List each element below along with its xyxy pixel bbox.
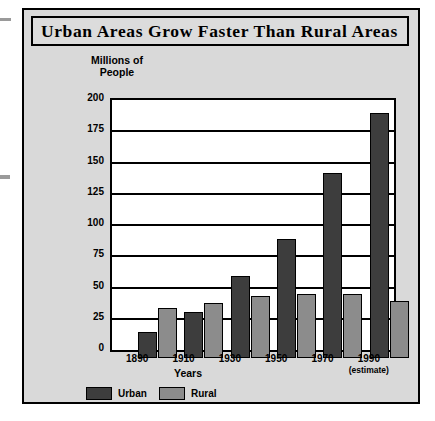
bar-group-1930 [231, 110, 277, 358]
x-axis-ticks: 189019101930195019701990(estimate) [112, 353, 390, 383]
y-tick-label-175: 175 [64, 123, 104, 134]
y-tick-label-200: 200 [64, 92, 104, 103]
x-tick-year: 1990 [358, 353, 380, 364]
x-tick-label-1990: 1990(estimate) [338, 353, 400, 375]
legend-label-rural: Rural [191, 388, 217, 399]
bar-rural-1950 [297, 294, 316, 358]
x-tick-note: (estimate) [338, 365, 400, 375]
legend-item-urban: Urban [86, 387, 147, 400]
chart-legend: UrbanRural [86, 387, 216, 400]
x-tick-year: 1970 [311, 353, 333, 364]
y-tick-label-75: 75 [64, 248, 104, 259]
bar-urban-1930 [231, 276, 250, 359]
bar-group-1990 [370, 110, 416, 358]
legend-swatch-urban [86, 387, 112, 400]
chart-title-bar: Urban Areas Grow Faster Than Rural Areas [31, 16, 409, 46]
y-axis-title-line1: Millions of [62, 54, 172, 66]
y-tick-label-150: 150 [64, 155, 104, 166]
x-tick-year: 1890 [126, 353, 148, 364]
bar-group-1890 [138, 110, 184, 358]
y-axis-title: Millions of People [62, 54, 172, 78]
y-tick-label-125: 125 [64, 186, 104, 197]
x-tick-year: 1910 [172, 353, 194, 364]
bar-rural-1930 [251, 296, 270, 359]
x-axis-label: Years [174, 367, 202, 379]
y-tick-label-0: 0 [64, 342, 104, 353]
plot-frame [110, 98, 396, 352]
y-axis-title-line2: People [62, 66, 172, 78]
legend-label-urban: Urban [118, 388, 147, 399]
plot-area: 2001751501251007550250 [88, 90, 394, 356]
bar-rural-1970 [343, 294, 362, 358]
bar-rural-1910 [204, 303, 223, 358]
bar-group-1950 [277, 110, 323, 358]
legend-swatch-rural [159, 387, 185, 400]
bar-group-1970 [323, 110, 369, 358]
bar-urban-1910 [184, 312, 203, 358]
bar-rural-1990 [390, 301, 409, 359]
bar-urban-1970 [323, 173, 342, 358]
scan-artifact-middle [0, 175, 10, 179]
bar-group-1910 [184, 110, 230, 358]
y-tick-label-25: 25 [64, 311, 104, 322]
x-tick-year: 1950 [265, 353, 287, 364]
x-tick-year: 1930 [219, 353, 241, 364]
scan-artifact-top [0, 18, 11, 21]
chart-figure: Urban Areas Grow Faster Than Rural Areas… [22, 8, 420, 404]
legend-item-rural: Rural [159, 387, 217, 400]
y-axis-ticks: 2001751501251007550250 [64, 98, 104, 348]
y-tick-label-50: 50 [64, 280, 104, 291]
bar-rural-1890 [158, 308, 177, 358]
bar-urban-1990 [370, 113, 389, 358]
bar-groups [136, 110, 414, 358]
page-title: Urban Areas Grow Faster Than Rural Areas [41, 21, 398, 42]
bar-urban-1950 [277, 239, 296, 358]
y-tick-label-100: 100 [64, 217, 104, 228]
